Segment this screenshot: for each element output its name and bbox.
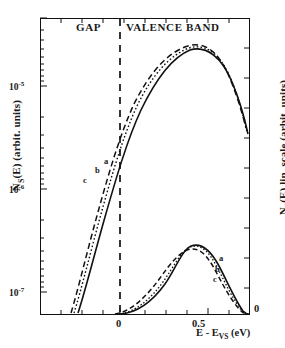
lower-curve-label-b: b xyxy=(215,264,220,274)
y-axis-left-title-text: NS(E) (arbit. units) xyxy=(10,100,22,191)
x-axis-title-text: E - EVS (eV) xyxy=(196,327,250,338)
y-axis-left-title: NS(E) (arbit. units) xyxy=(10,36,25,256)
figure-container: GAP VALENCE BAND NS(E) (arbit. units) NS… xyxy=(0,0,285,348)
y-tick-label-1e-7: 10-7 xyxy=(9,286,24,298)
y-axis-right-title-text: NS(E) lin. scale (arbit. units) xyxy=(277,80,285,215)
x-axis-title: E - EVS (eV) xyxy=(196,327,250,341)
y-axis-right-title: NS(E) lin. scale (arbit. units) xyxy=(277,33,285,263)
x-tick-label-0: 0 xyxy=(116,318,121,329)
y-tick-label-1e-6: 10-6 xyxy=(9,183,24,195)
lower-curve-label-a: a xyxy=(219,253,223,263)
y-tick-label-1e-5: 10-5 xyxy=(9,80,24,92)
region-label-gap: GAP xyxy=(76,21,101,33)
upper-curve-label-c: c xyxy=(83,175,87,185)
upper-curve-label-a: a xyxy=(104,156,108,166)
lower-curve-label-c: c xyxy=(213,274,217,284)
y-tick-label-right-zero: 0 xyxy=(254,303,259,314)
region-label-valence-band: VALENCE BAND xyxy=(126,21,220,33)
upper-curve-label-b: b xyxy=(95,165,100,175)
